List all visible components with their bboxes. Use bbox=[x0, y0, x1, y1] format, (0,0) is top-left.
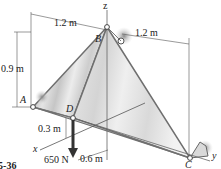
joint-a bbox=[31, 105, 36, 110]
axis-label-z: z bbox=[103, 1, 107, 11]
dim-height: 0.9 m bbox=[1, 64, 24, 74]
dim-top-right: 1.2 m bbox=[135, 28, 158, 38]
point-label-b: B bbox=[95, 34, 101, 44]
dim-d-offset: 0.3 m bbox=[38, 124, 61, 134]
joint-d bbox=[71, 116, 76, 121]
diagram-canvas: z 1.2 m 1.2 m B 0.9 m A D 0.3 m x 650 N … bbox=[0, 0, 221, 169]
point-label-c: C bbox=[185, 160, 192, 169]
axis-label-x: x bbox=[33, 144, 37, 154]
axis-label-y: y bbox=[212, 151, 216, 161]
dim-bottom: 0.6 m bbox=[80, 154, 103, 164]
point-label-d: D bbox=[66, 104, 73, 114]
load-arrow-head bbox=[68, 148, 78, 158]
socket-a bbox=[35, 90, 49, 104]
dim-top-left: 1.2 m bbox=[54, 18, 77, 28]
joint-b bbox=[105, 25, 110, 30]
figure-label: F5-36 bbox=[0, 161, 16, 169]
point-label-a: A bbox=[20, 95, 26, 105]
load-value: 650 N bbox=[44, 155, 69, 165]
